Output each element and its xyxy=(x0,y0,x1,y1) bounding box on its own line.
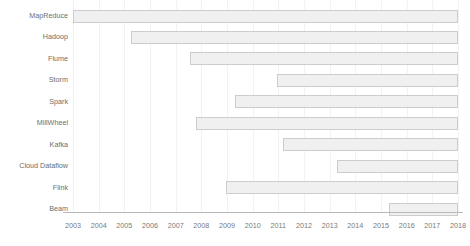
x-tick-label-2015: 2015 xyxy=(373,222,389,229)
x-tick-label-2008: 2008 xyxy=(193,222,209,229)
x-tick-label-2006: 2006 xyxy=(142,222,158,229)
x-tick-label-2012: 2012 xyxy=(296,222,312,229)
x-tick-label-2003: 2003 xyxy=(65,222,81,229)
category-label-flink: Flink xyxy=(2,184,68,191)
category-label-mapreduce: MapReduce xyxy=(2,12,68,19)
category-label-cloud-dataflow: Cloud Dataflow xyxy=(2,162,68,169)
category-label-beam: Beam xyxy=(2,205,68,212)
timeline-bar-hadoop xyxy=(131,31,458,44)
x-tick-label-2009: 2009 xyxy=(219,222,235,229)
category-label-spark: Spark xyxy=(2,98,68,105)
x-axis-line xyxy=(63,212,463,213)
x-tick-label-2017: 2017 xyxy=(424,222,440,229)
x-tick-label-2013: 2013 xyxy=(322,222,338,229)
x-tick-label-2007: 2007 xyxy=(168,222,184,229)
timeline-bar-kafka xyxy=(283,138,458,151)
x-tick-label-2010: 2010 xyxy=(245,222,261,229)
x-axis-tick-labels: 2003200420052006200720082009201020112012… xyxy=(0,222,470,238)
x-tick-label-2011: 2011 xyxy=(271,222,286,229)
category-label-hadoop: Hadoop xyxy=(2,33,68,40)
x-tick-label-2018: 2018 xyxy=(450,222,466,229)
category-label-column: MapReduceHadoopFlumeStormSparkMillWheelK… xyxy=(0,0,68,213)
timeline-bar-mapreduce xyxy=(73,10,458,23)
timeline-bar-flink xyxy=(226,181,458,194)
x-tick-label-2004: 2004 xyxy=(91,222,107,229)
x-tick-label-2005: 2005 xyxy=(116,222,132,229)
category-label-storm: Storm xyxy=(2,76,68,83)
plot-area xyxy=(73,0,459,213)
x-tick-label-2016: 2016 xyxy=(399,222,415,229)
timeline-bar-cloud-dataflow xyxy=(337,160,458,173)
gridline xyxy=(124,0,125,213)
category-label-flume: Flume xyxy=(2,55,68,62)
timeline-bar-storm xyxy=(277,74,458,87)
category-label-millwheel: MillWheel xyxy=(2,119,68,126)
gridline xyxy=(458,0,459,213)
gridline xyxy=(99,0,100,213)
timeline-bar-spark xyxy=(235,95,458,108)
timeline-bar-millwheel xyxy=(196,117,458,130)
x-tick-label-2014: 2014 xyxy=(347,222,363,229)
timeline-bar-beam xyxy=(389,203,458,216)
category-label-kafka: Kafka xyxy=(2,141,68,148)
timeline-bar-flume xyxy=(190,52,458,65)
gantt-timeline-chart: MapReduceHadoopFlumeStormSparkMillWheelK… xyxy=(0,0,470,246)
gridline xyxy=(73,0,74,213)
